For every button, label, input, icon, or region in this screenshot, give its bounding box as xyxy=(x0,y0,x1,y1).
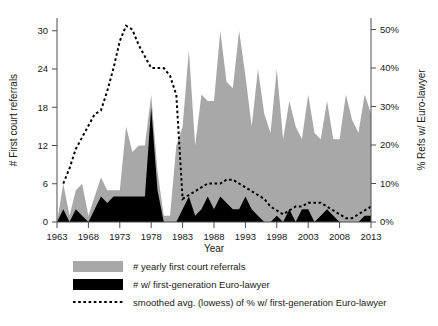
area-total-referrals xyxy=(57,31,371,222)
x-tick-label: 1983 xyxy=(172,231,193,242)
x-tick-label: 1963 xyxy=(46,231,67,242)
right-tick-label: 20% xyxy=(380,139,400,150)
x-tick-label: 1973 xyxy=(109,231,130,242)
x-tick-label: 1993 xyxy=(235,231,256,242)
legend-label: # yearly first court referrals xyxy=(133,261,246,272)
bottom-axis-ticks: 1963196819731978198319881993199820032008… xyxy=(46,222,381,242)
legend-swatch-grey xyxy=(73,261,123,272)
left-tick-label: 0 xyxy=(43,216,48,227)
legend-swatch-black xyxy=(73,279,123,290)
left-tick-label: 18 xyxy=(37,102,48,113)
x-tick-label: 1978 xyxy=(141,231,162,242)
left-tick-label: 30 xyxy=(37,25,48,36)
chart-canvas: 0612182430 # First court referrals 0%10%… xyxy=(0,0,438,326)
left-tick-label: 12 xyxy=(37,140,48,151)
legend-item: # w/ first-generation Euro-lawyer xyxy=(73,279,270,290)
right-axis: 0%10%20%30%40%50% % Refs w/ Euro-lawyer xyxy=(371,18,427,227)
right-tick-label: 30% xyxy=(380,101,400,112)
x-tick-label: 1968 xyxy=(78,231,99,242)
x-tick-label: 2008 xyxy=(329,231,350,242)
legend-label: smoothed avg. (lowess) of % w/ first-gen… xyxy=(133,297,386,308)
legend-label: # w/ first-generation Euro-lawyer xyxy=(133,279,270,290)
chart-legend: # yearly first court referrals# w/ first… xyxy=(73,261,386,308)
left-tick-label: 6 xyxy=(43,178,48,189)
x-tick-label: 1988 xyxy=(203,231,224,242)
left-tick-label: 24 xyxy=(37,63,48,74)
right-axis-ticks: 0%10%20%30%40%50% xyxy=(371,24,400,227)
legend-item: # yearly first court referrals xyxy=(73,261,246,272)
right-tick-label: 50% xyxy=(380,24,400,35)
chart-figure: 0612182430 # First court referrals 0%10%… xyxy=(0,0,438,326)
x-tick-label: 2003 xyxy=(298,231,319,242)
right-tick-label: 40% xyxy=(380,62,400,73)
right-tick-label: 0% xyxy=(380,216,394,227)
bottom-axis: 1963196819731978198319881993199820032008… xyxy=(46,222,381,254)
legend-item: smoothed avg. (lowess) of % w/ first-gen… xyxy=(73,297,386,308)
right-tick-label: 10% xyxy=(380,178,400,189)
left-axis-ticks: 0612182430 xyxy=(37,25,57,227)
right-axis-title: % Refs w/ Euro-lawyer xyxy=(416,69,427,171)
x-tick-label: 2013 xyxy=(360,231,381,242)
plot-area xyxy=(57,26,371,222)
x-tick-label: 1998 xyxy=(266,231,287,242)
left-axis: 0612182430 # First court referrals xyxy=(8,18,57,227)
x-axis-title: Year xyxy=(204,243,225,254)
left-axis-title: # First court referrals xyxy=(8,74,19,166)
